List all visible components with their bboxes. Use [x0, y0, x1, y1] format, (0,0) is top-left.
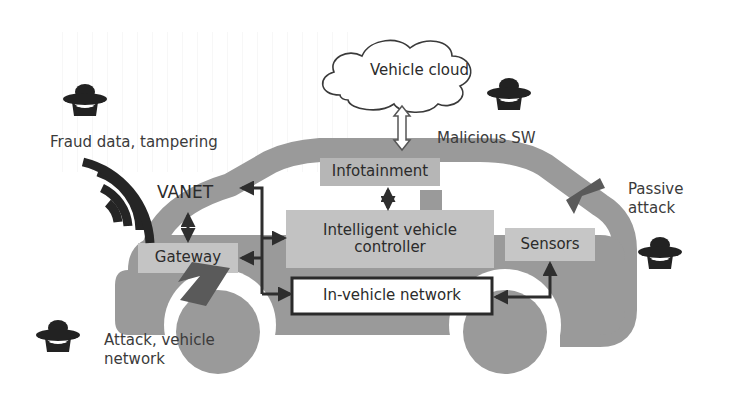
in-vehicle-network-label: In-vehicle network [292, 278, 492, 314]
threat-fraud-label: Fraud data, tampering [50, 135, 218, 150]
hacker-icon-fraud [63, 84, 107, 116]
threat-passive-label: Passive attack [628, 180, 683, 218]
threat-attack-line1: Attack, vehicle [104, 331, 215, 350]
vanet-label: VANET [157, 184, 213, 201]
threat-attack-label: Attack, vehicle network [104, 331, 215, 369]
sensors-box: Sensors [505, 228, 595, 261]
controller-line2: controller [354, 239, 426, 256]
controller-line1: Intelligent vehicle [323, 222, 457, 239]
threat-passive-line2: attack [628, 199, 683, 218]
vehicle-cloud-label: Vehicle cloud [370, 63, 469, 78]
hacker-icon-malicious [487, 78, 531, 110]
hacker-icon-passive [638, 237, 682, 269]
cloud-link-arrow [394, 106, 410, 150]
intelligent-vehicle-controller-box: Intelligent vehicle controller [286, 210, 494, 268]
threat-malicious-label: Malicious SW [437, 131, 536, 146]
infotainment-box: Infotainment [320, 158, 440, 186]
vehicle-security-diagram: Fraud data, tampering VANET Vehicle clou… [0, 0, 733, 395]
hacker-icon-attack [36, 320, 80, 352]
threat-passive-line1: Passive [628, 180, 683, 199]
wireless-signal-icon [83, 162, 150, 243]
threat-attack-line2: network [104, 350, 215, 369]
gateway-box: Gateway [138, 243, 238, 273]
